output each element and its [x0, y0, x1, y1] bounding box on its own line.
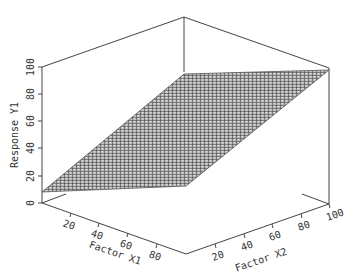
x2-tick-60: 60	[267, 229, 282, 243]
x1-axis-label: Factor X1	[88, 239, 143, 267]
x1-tick-80: 80	[148, 249, 163, 263]
z-axis	[38, 67, 42, 203]
z-tick-labels: 0 20 40 60 80 100	[25, 58, 36, 206]
x1-tick-20: 20	[62, 218, 77, 232]
z-tick-0: 0	[25, 200, 36, 206]
response-surface	[42, 70, 329, 192]
z-tick-20: 20	[25, 170, 36, 182]
surface-plot-3d: 0 20 40 60 80 100 Response Y1 20 40 60 8…	[0, 0, 355, 278]
z-tick-100: 100	[25, 58, 36, 76]
x1-axis-ticks	[70, 213, 157, 248]
x2-tick-80: 80	[296, 219, 311, 233]
x2-tick-40: 40	[239, 239, 254, 253]
x2-tick-100: 100	[325, 207, 346, 223]
z-tick-80: 80	[25, 88, 36, 100]
z-axis-label: Response Y1	[9, 102, 20, 168]
z-tick-60: 60	[25, 115, 36, 127]
z-tick-40: 40	[25, 142, 36, 154]
x2-tick-20: 20	[210, 249, 225, 263]
